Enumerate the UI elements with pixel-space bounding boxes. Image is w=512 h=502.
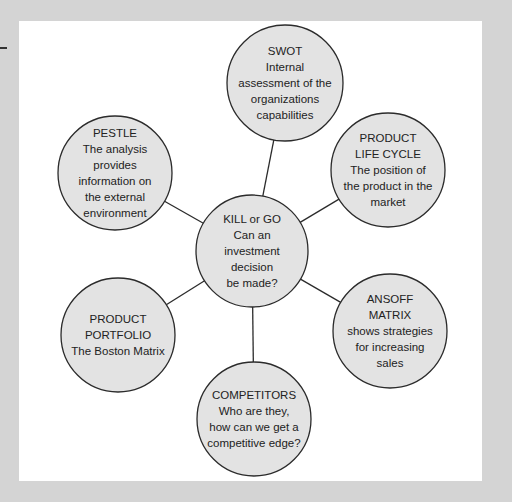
node-swot-text-line: capabilities <box>257 109 314 121</box>
node-pestle-text-line: information on <box>79 175 152 187</box>
node-swot-text-line: assessment of the <box>238 77 331 89</box>
node-product-portfolio-text-line: The Boston Matrix <box>71 345 165 357</box>
node-competitors-text-line: how can we get a <box>209 421 299 433</box>
node-pestle-text-line: PESTLE <box>93 127 137 139</box>
connector-swot <box>263 140 274 196</box>
node-ansoff-matrix-text-line: shows strategies <box>347 325 433 337</box>
node-competitors: COMPETITORSWho are they,how can we get a… <box>197 362 311 476</box>
node-kill-or-go: KILL or GOCan aninvestmentdecisionbe mad… <box>196 195 308 307</box>
node-product-life-cycle: PRODUCTLIFE CYCLEThe position ofthe prod… <box>331 113 445 227</box>
node-kill-or-go-text-line: investment <box>224 245 280 257</box>
node-kill-or-go-text-line: be made? <box>226 277 277 289</box>
connector-pestle <box>165 201 204 223</box>
node-ansoff-matrix-text-line: for increasing <box>355 341 424 353</box>
node-competitors-text-line: COMPETITORS <box>212 389 296 401</box>
node-swot-text-line: SWOT <box>268 45 303 57</box>
connector-product-life-cycle <box>300 199 339 222</box>
node-kill-or-go-text-line: Can an <box>233 229 270 241</box>
node-product-life-cycle-text-line: PRODUCT <box>360 132 417 144</box>
node-product-life-cycle-text-line: LIFE CYCLE <box>355 148 421 160</box>
node-product-life-cycle-text-line: the product in the <box>344 180 433 192</box>
node-pestle-text-line: the external <box>85 191 145 203</box>
node-competitors-text-line: Who are they, <box>219 405 290 417</box>
node-swot: SWOTInternalassessment of theorganizatio… <box>227 25 343 141</box>
node-swot-text-line: Internal <box>266 61 304 73</box>
node-ansoff-matrix-text-line: sales <box>377 357 404 369</box>
node-product-portfolio-text-line: PORTFOLIO <box>85 329 151 341</box>
node-swot-text-line: organizations <box>251 93 320 105</box>
node-product-portfolio: PRODUCTPORTFOLIOThe Boston Matrix <box>61 278 175 392</box>
node-product-life-cycle-text-line: market <box>370 196 406 208</box>
node-competitors-text-line: competitive edge? <box>207 437 300 449</box>
node-competitors-circle <box>197 362 311 476</box>
connector-ansoff-matrix <box>300 279 340 302</box>
node-pestle: PESTLEThe analysisprovidesinformation on… <box>58 116 172 230</box>
connector-competitors <box>253 307 254 362</box>
node-ansoff-matrix-text-line: MATRIX <box>369 309 412 321</box>
node-kill-or-go-text-line: KILL or GO <box>223 213 281 225</box>
node-pestle-text-line: environment <box>83 207 147 219</box>
node-pestle-text-line: provides <box>93 159 137 171</box>
node-pestle-text-line: The analysis <box>83 143 148 155</box>
node-product-portfolio-text-line: PRODUCT <box>90 313 147 325</box>
node-product-life-cycle-text-line: The position of <box>350 164 426 176</box>
node-ansoff-matrix: ANSOFFMATRIXshows strategiesfor increasi… <box>333 274 447 388</box>
node-ansoff-matrix-text-line: ANSOFF <box>367 293 414 305</box>
spider-diagram: KILL or GOCan aninvestmentdecisionbe mad… <box>0 0 512 502</box>
node-kill-or-go-text-line: decision <box>231 261 273 273</box>
connector-product-portfolio <box>166 281 204 305</box>
